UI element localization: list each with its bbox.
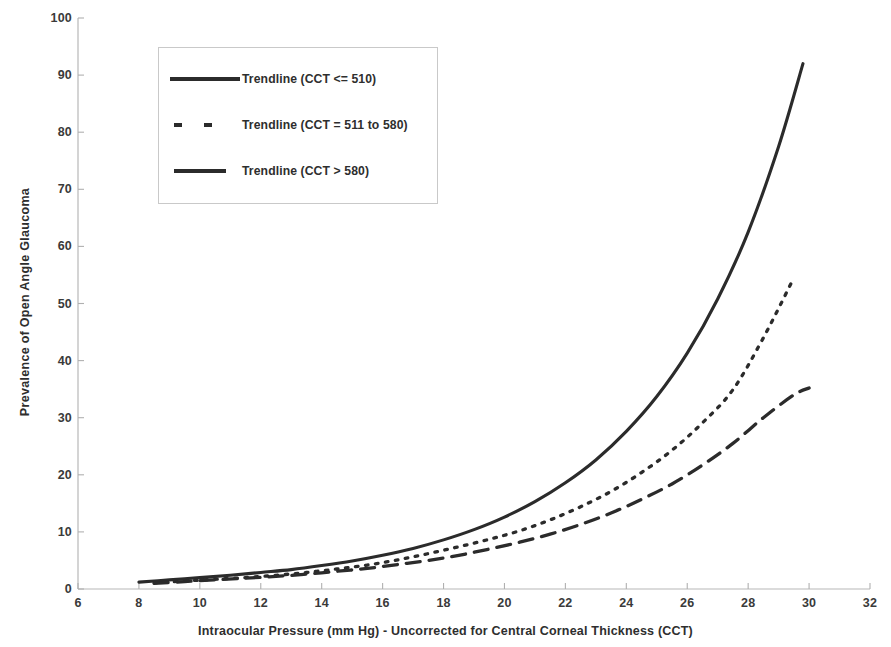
legend-item-label: Trendline (CCT > 580) <box>242 164 369 178</box>
legend-item-label: Trendline (CCT = 511 to 580) <box>242 118 408 132</box>
x-tick-label: 16 <box>363 596 403 610</box>
x-tick-label: 20 <box>484 596 524 610</box>
x-tick-label: 6 <box>58 596 98 610</box>
legend-item: Trendline (CCT <= 510) <box>159 64 437 94</box>
x-tick-label: 28 <box>728 596 768 610</box>
legend-item-label: Trendline (CCT <= 510) <box>242 72 376 86</box>
x-axis-title: Intraocular Pressure (mm Hg) - Uncorrect… <box>0 624 891 638</box>
x-axis-tick-labels: 68101214161820222426283032 <box>0 596 891 616</box>
legend-item: Trendline (CCT = 511 to 580) <box>159 110 437 140</box>
x-tick-label: 18 <box>424 596 464 610</box>
chart-figure: Prevalence of Open Angle Glaucoma 010203… <box>0 0 891 647</box>
legend-line-swatch <box>168 72 240 86</box>
legend-line-swatch <box>168 164 240 178</box>
series-line <box>154 388 809 583</box>
x-tick-label: 30 <box>789 596 829 610</box>
x-tick-label: 32 <box>850 596 890 610</box>
plot-area <box>0 0 891 647</box>
chart-legend: Trendline (CCT <= 510)Trendline (CCT = 5… <box>158 47 438 204</box>
series-line <box>154 278 794 583</box>
x-tick-label: 24 <box>606 596 646 610</box>
x-tick-label: 14 <box>302 596 342 610</box>
x-tick-label: 10 <box>180 596 220 610</box>
x-tick-label: 22 <box>545 596 585 610</box>
legend-item: Trendline (CCT > 580) <box>159 156 437 186</box>
x-tick-label: 8 <box>119 596 159 610</box>
legend-line-swatch <box>168 118 240 132</box>
x-tick-label: 12 <box>241 596 281 610</box>
x-tick-label: 26 <box>667 596 707 610</box>
